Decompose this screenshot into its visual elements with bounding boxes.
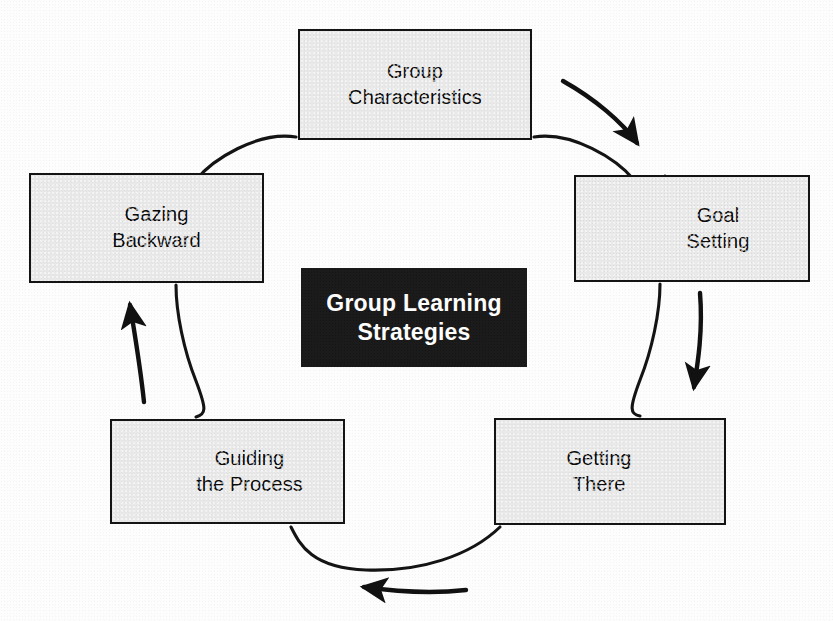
node-goal-setting: Goal Setting bbox=[574, 175, 810, 282]
arrow-right bbox=[694, 293, 701, 387]
node-label: Getting There bbox=[566, 446, 631, 497]
connector-bottom-right-to-bottom-left bbox=[291, 527, 500, 570]
node-label: Gazing Backward bbox=[112, 202, 201, 253]
node-gazing-backward: Gazing Backward bbox=[29, 173, 264, 283]
connector-right-to-bottom-right bbox=[632, 284, 660, 416]
diagram-center-title: Group Learning Strategies bbox=[301, 268, 527, 367]
arrow-top-right bbox=[563, 81, 637, 143]
node-group-characteristics: Group Characteristics bbox=[298, 29, 532, 140]
node-guiding-the-process: Guiding the Process bbox=[110, 419, 345, 524]
node-getting-there: Getting There bbox=[494, 418, 726, 525]
node-label: Guiding the Process bbox=[196, 446, 303, 497]
arrow-bottom bbox=[364, 587, 466, 592]
node-label: Group Characteristics bbox=[348, 59, 482, 110]
connector-left-to-bottom-left bbox=[176, 285, 204, 417]
center-title-label: Group Learning Strategies bbox=[326, 289, 501, 345]
diagram-canvas: Group Characteristics Goal Setting Getti… bbox=[0, 0, 833, 621]
node-label: Goal Setting bbox=[687, 203, 750, 254]
arrow-left bbox=[130, 305, 144, 402]
